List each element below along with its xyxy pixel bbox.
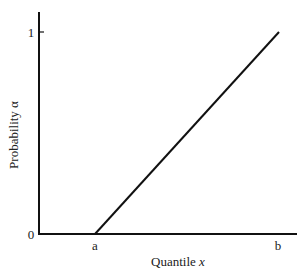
- y-axis-label: Probability α: [6, 101, 21, 169]
- y-tick-label-0: 0: [28, 227, 35, 242]
- x-axis-label-var: x: [198, 254, 205, 269]
- x-axis-label: Quantile x: [151, 254, 205, 269]
- x-tick-label-b: b: [275, 238, 282, 253]
- x-axis-label-text: Quantile: [151, 254, 196, 269]
- x-tick-label-a: a: [92, 238, 98, 253]
- y-tick-label-1: 1: [28, 25, 35, 40]
- cdf-line: [95, 32, 279, 234]
- chart: 1 0 a b Quantile x Probability α: [0, 0, 305, 275]
